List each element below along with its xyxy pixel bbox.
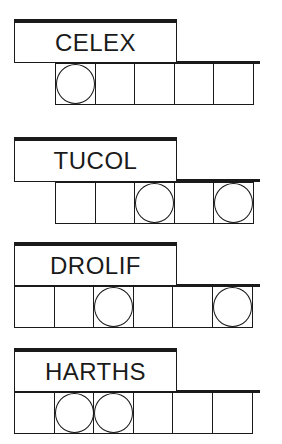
answer-letter-box[interactable]	[172, 286, 213, 328]
answer-letter-box[interactable]	[14, 392, 55, 434]
answer-letter-box[interactable]	[213, 63, 254, 105]
answer-letter-box[interactable]	[212, 392, 253, 434]
answer-letter-box-circled[interactable]	[93, 286, 134, 328]
answer-letter-box[interactable]	[174, 63, 215, 105]
scrambled-word: TUCOL	[54, 147, 138, 175]
circle-marker-icon	[55, 393, 94, 433]
scrambled-word-box: HARTHS	[14, 348, 177, 392]
answer-letter-box[interactable]	[95, 63, 136, 105]
answer-letter-row	[14, 286, 253, 328]
circle-marker-icon	[213, 287, 252, 327]
scrambled-word: CELEX	[55, 29, 136, 57]
answer-letter-box[interactable]	[172, 392, 213, 434]
circle-marker-icon	[135, 183, 174, 223]
answer-letter-box[interactable]	[54, 286, 95, 328]
scrambled-word: HARTHS	[45, 358, 146, 386]
answer-letter-box-circled[interactable]	[212, 286, 253, 328]
answer-letter-box[interactable]	[133, 286, 174, 328]
answer-letter-row	[55, 182, 254, 224]
scrambled-word-box: CELEX	[14, 19, 177, 63]
circle-marker-icon	[94, 287, 133, 327]
answer-letter-box-circled[interactable]	[55, 63, 96, 105]
answer-letter-box-circled[interactable]	[93, 392, 134, 434]
circle-marker-icon	[56, 64, 95, 104]
scrambled-word-box: DROLIF	[14, 242, 177, 286]
answer-letter-box[interactable]	[134, 63, 175, 105]
answer-letter-box-circled[interactable]	[134, 182, 175, 224]
answer-letter-box[interactable]	[174, 182, 215, 224]
answer-letter-box[interactable]	[14, 286, 55, 328]
answer-letter-box[interactable]	[133, 392, 174, 434]
answer-letter-box-circled[interactable]	[213, 182, 254, 224]
answer-letter-box[interactable]	[55, 182, 96, 224]
answer-letter-row	[55, 63, 254, 105]
scrambled-word: DROLIF	[50, 252, 141, 280]
circle-marker-icon	[214, 183, 253, 223]
circle-marker-icon	[94, 393, 133, 433]
answer-letter-box-circled[interactable]	[54, 392, 95, 434]
scrambled-word-box: TUCOL	[14, 137, 177, 182]
answer-letter-row	[14, 392, 253, 434]
answer-letter-box[interactable]	[95, 182, 136, 224]
